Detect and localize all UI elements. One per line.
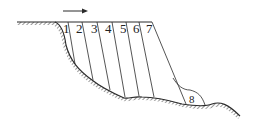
- slice-label-1: 1: [63, 21, 70, 36]
- slice-label-4: 4: [105, 21, 112, 36]
- slice-label-3: 3: [91, 21, 98, 36]
- slice-label-5: 5: [120, 21, 127, 36]
- slope-diagram: 1 2 3 4 5 6 7 8: [0, 0, 257, 138]
- slice-lines: [68, 22, 186, 104]
- arrow-right-icon: [63, 9, 88, 14]
- slice-label-2: 2: [76, 21, 83, 36]
- slice-label-6: 6: [133, 21, 140, 36]
- slice-label-7: 7: [146, 21, 153, 36]
- slice-label-8: 8: [189, 93, 195, 105]
